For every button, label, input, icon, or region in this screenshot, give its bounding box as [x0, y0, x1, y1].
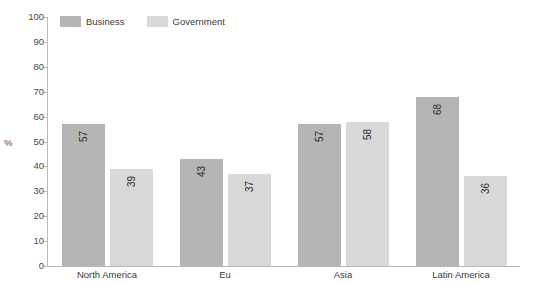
y-axis-tick-label: 90 [4, 37, 44, 47]
bar-group: 6836 [416, 17, 507, 266]
bar-government-north-america[interactable]: 39 [110, 169, 153, 266]
bar-business-latin-america[interactable]: 68 [416, 97, 459, 266]
bar-group: 5758 [298, 17, 389, 266]
bar-government-eu[interactable]: 37 [228, 174, 271, 266]
bar-government-asia[interactable]: 58 [346, 122, 389, 266]
bar-business-north-america[interactable]: 57 [62, 124, 105, 266]
x-axis-label-asia: Asia [284, 270, 402, 280]
bar-value-label: 37 [244, 181, 255, 192]
bar-value-label: 57 [78, 131, 89, 142]
cropped-title-remnant [60, 0, 480, 4]
y-axis-tick-label: 20 [4, 211, 44, 221]
plot-area: 5739433757586836 [48, 17, 520, 266]
y-axis-tick-label: 10 [4, 236, 44, 246]
bar-value-label: 68 [432, 104, 443, 115]
y-axis-tick-label: 0 [4, 261, 44, 271]
bar-business-asia[interactable]: 57 [298, 124, 341, 266]
bar-value-label: 58 [362, 129, 373, 140]
bar-value-label: 43 [196, 166, 207, 177]
y-axis-tick-label: 100 [4, 12, 44, 22]
y-axis-tick-label: 80 [4, 62, 44, 72]
y-axis-tick-label: 60 [4, 112, 44, 122]
x-axis-label-north-america: North America [48, 270, 166, 280]
bar-chart: 1009080706050403020100 % Business Govern… [0, 0, 544, 283]
bar-value-label: 39 [126, 176, 137, 187]
x-axis-line [47, 266, 520, 267]
y-axis-title: % [4, 138, 12, 148]
y-axis-tick-label: 40 [4, 161, 44, 171]
bar-group: 5739 [62, 17, 153, 266]
bar-business-eu[interactable]: 43 [180, 159, 223, 266]
bar-government-latin-america[interactable]: 36 [464, 176, 507, 266]
bar-value-label: 57 [314, 131, 325, 142]
y-axis-tick-label: 70 [4, 87, 44, 97]
bar-group: 4337 [180, 17, 271, 266]
bar-value-label: 36 [480, 183, 491, 194]
x-axis-label-eu: Eu [166, 270, 284, 280]
x-axis-label-latin-america: Latin America [402, 270, 520, 280]
y-axis-tick-label: 30 [4, 186, 44, 196]
